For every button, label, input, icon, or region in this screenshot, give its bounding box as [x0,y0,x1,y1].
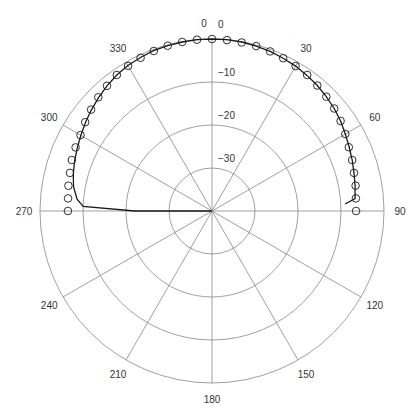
angle-label: 150 [298,369,315,380]
angle-label: 90 [394,206,406,217]
angle-label: 330 [110,43,127,54]
grid-spoke [212,211,361,297]
grid-spoke [126,62,212,211]
grid-spoke [63,125,212,211]
radial-label: −20 [218,110,235,121]
angle-label: 60 [369,112,381,123]
angle-label: 270 [16,206,33,217]
angle-label: 120 [366,300,383,311]
radial-label: −10 [218,67,235,78]
angle-label: 240 [41,300,58,311]
grid-spoke [212,62,298,211]
data-marker [72,144,80,152]
angle-label: 0 [201,18,207,29]
grid-spoke [212,125,361,211]
angle-label: 300 [41,112,58,123]
data-marker [65,182,73,190]
angle-label: 210 [110,369,127,380]
polar-chart: 0306090120150180210240270300330 0−10−20−… [0,0,420,417]
data-marker [66,169,74,177]
data-marker [64,195,72,203]
grid-spoke [126,211,212,360]
radial-label: −30 [218,153,235,164]
grid-spoke [212,211,298,360]
data-marker [352,195,360,203]
angle-label: 30 [300,43,312,54]
grid-spoke [63,211,212,297]
radial-label: 0 [218,19,224,30]
angle-label: 180 [204,394,221,405]
